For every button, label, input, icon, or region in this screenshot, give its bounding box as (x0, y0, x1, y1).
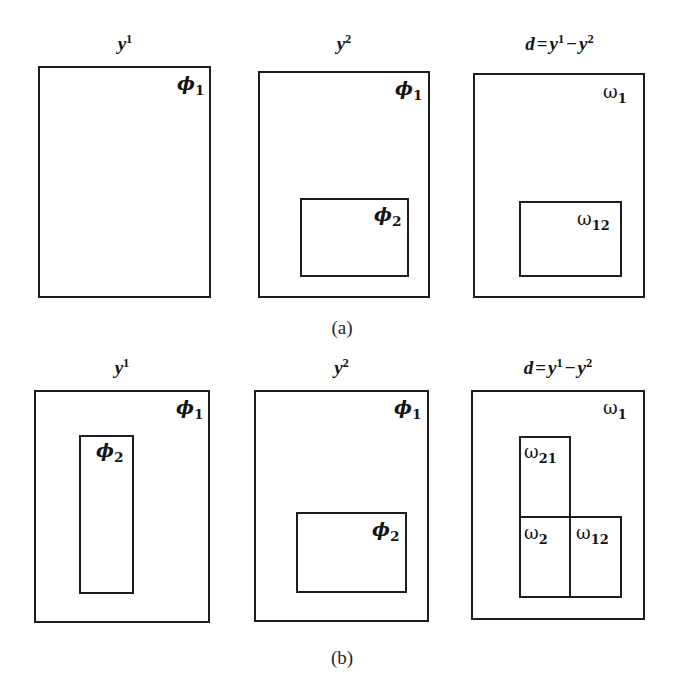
omega-glyph: ω (577, 208, 592, 229)
title-superscript-1: 1 (556, 356, 562, 370)
omega-glyph: ω (603, 81, 618, 102)
phi-glyph: ϕ (395, 77, 413, 99)
omega-glyph: ω (576, 522, 591, 543)
panel-b2-title: y2 (254, 357, 429, 377)
label-omega-21: ω21 (524, 443, 557, 466)
phi-glyph: ϕ (372, 518, 390, 540)
omega-subscript: 1 (618, 91, 627, 106)
phi-glyph: ϕ (96, 439, 114, 461)
phi-glyph: ϕ (394, 396, 412, 418)
row-caption-b: (b) (0, 648, 684, 667)
label-phi-1: ϕ1 (395, 79, 422, 102)
panel-a2-title: y2 (258, 33, 430, 53)
title-base-2: y (579, 33, 587, 54)
label-phi-2: ϕ2 (372, 520, 399, 543)
title-equals: = (535, 33, 550, 54)
phi-glyph: ϕ (177, 72, 195, 94)
title-base: y (115, 357, 123, 378)
label-omega-1: ω1 (603, 83, 627, 106)
title-lhs: d (524, 357, 534, 378)
omega-subscript: 2 (539, 532, 548, 547)
title-base-2: y (578, 357, 586, 378)
omega-glyph: ω (524, 522, 539, 543)
title-superscript-2: 2 (586, 356, 592, 370)
omega-subscript: 12 (591, 532, 609, 547)
title-superscript: 2 (345, 32, 351, 46)
phi-subscript: 2 (390, 528, 400, 544)
figure-canvas: y1 ϕ1 y2 ϕ1 ϕ2 d=y1−y2 ω1 ω12 (0, 0, 684, 693)
label-omega-2: ω2 (524, 524, 548, 547)
panel-a1-title: y1 (38, 33, 212, 53)
omega-subscript: 21 (539, 451, 557, 466)
phi-subscript: 1 (194, 406, 204, 422)
panel-b1-title: y1 (34, 357, 210, 377)
label-phi-1: ϕ1 (176, 398, 203, 421)
title-base: y (337, 33, 345, 54)
phi-glyph: ϕ (374, 203, 392, 225)
title-equals: = (533, 357, 548, 378)
label-phi-2: ϕ2 (96, 441, 123, 464)
phi-subscript: 1 (413, 87, 423, 103)
panel-b3-title: d=y1−y2 (471, 357, 645, 377)
phi-subscript: 1 (195, 82, 205, 98)
omega-glyph: ω (524, 441, 539, 462)
label-omega-12: ω12 (577, 210, 610, 233)
title-base: y (334, 357, 342, 378)
omega-subscript: 1 (618, 407, 627, 422)
title-minus: − (564, 33, 579, 54)
title-superscript-2: 2 (588, 32, 594, 46)
label-phi-2: ϕ2 (374, 205, 401, 228)
title-base-1: y (550, 33, 558, 54)
phi-subscript: 2 (114, 449, 124, 465)
label-omega-12: ω12 (576, 524, 609, 547)
phi-subscript: 1 (412, 406, 422, 422)
omega-glyph: ω (603, 397, 618, 418)
omega-subscript: 12 (592, 218, 610, 233)
label-omega-1: ω1 (603, 399, 627, 422)
title-superscript: 1 (123, 356, 129, 370)
panel-a3-title: d=y1−y2 (473, 33, 646, 53)
title-minus: − (563, 357, 578, 378)
row-caption-a: (a) (0, 318, 684, 337)
region-phi-1-outer-box (38, 66, 211, 298)
phi-subscript: 2 (392, 213, 402, 229)
label-phi-1: ϕ1 (394, 398, 421, 421)
title-base: y (118, 33, 126, 54)
phi-glyph: ϕ (176, 396, 194, 418)
label-phi-1: ϕ1 (177, 74, 204, 97)
title-lhs: d (525, 33, 535, 54)
title-superscript: 1 (126, 32, 132, 46)
title-superscript: 2 (343, 356, 349, 370)
